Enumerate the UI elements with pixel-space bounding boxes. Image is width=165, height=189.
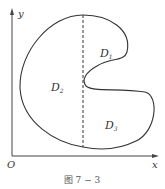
y-axis-arrow-icon	[10, 8, 14, 15]
region-label-d3: D3	[104, 119, 118, 132]
y-axis-label: y	[17, 8, 24, 19]
figure-caption: 图 7 − 3	[64, 175, 101, 185]
region-label-d2: D2	[50, 81, 64, 94]
origin-label: O	[7, 159, 15, 170]
figure-7-3: D1 D2 D3 y x O 图 7 − 3	[0, 0, 165, 189]
region-label-d1: D1	[99, 47, 113, 60]
region-boundary	[20, 15, 154, 149]
x-axis-arrow-icon	[152, 154, 159, 158]
x-axis-label: x	[152, 159, 158, 170]
